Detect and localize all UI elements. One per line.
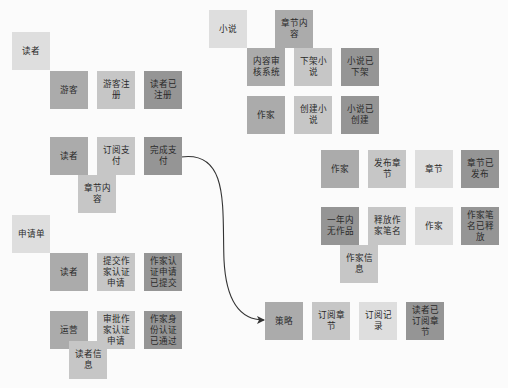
sticky-note-label: 提交作家认证申请 bbox=[99, 256, 133, 289]
sticky-note-command[interactable]: 读者信息 bbox=[69, 341, 107, 379]
sticky-note-command[interactable]: 提交作家认证申请 bbox=[97, 253, 135, 291]
sticky-note-label: 读者信息 bbox=[71, 349, 105, 371]
sticky-note-label: 订阅章节 bbox=[314, 310, 348, 332]
sticky-note-event[interactable]: 读者已订阅章节 bbox=[406, 302, 444, 340]
sticky-note-label: 作家信息 bbox=[342, 253, 376, 275]
sticky-note-label: 小说已下架 bbox=[343, 56, 377, 78]
sticky-note-label: 小说 bbox=[219, 24, 237, 35]
sticky-note-label: 读者 bbox=[60, 267, 78, 278]
sticky-note-label: 作家身份认证已通过 bbox=[146, 314, 180, 347]
sticky-note-actor[interactable]: 作家 bbox=[321, 150, 359, 188]
sticky-note-command[interactable]: 章节内容 bbox=[78, 175, 116, 213]
sticky-note-actor[interactable]: 读者 bbox=[50, 253, 88, 291]
arrow-payment-to-policy[interactable] bbox=[181, 156, 264, 320]
sticky-note-event[interactable]: 完成支付 bbox=[144, 137, 182, 175]
sticky-note-label: 作家 bbox=[331, 164, 349, 175]
sticky-note-label: 发布章节 bbox=[370, 158, 404, 180]
sticky-note-command[interactable]: 发布章节 bbox=[368, 150, 406, 188]
sticky-note-label: 章节 bbox=[425, 164, 443, 175]
sticky-note-event[interactable]: 小说已创建 bbox=[341, 96, 379, 134]
sticky-note-light[interactable]: 章节 bbox=[415, 150, 453, 188]
sticky-note-command[interactable]: 释放作家笔名 bbox=[368, 207, 406, 245]
sticky-note-label: 策略 bbox=[275, 316, 293, 327]
sticky-note-actor[interactable]: 作家 bbox=[247, 96, 285, 134]
sticky-note-label: 作家 bbox=[257, 110, 275, 121]
sticky-note-light[interactable]: 订阅记录 bbox=[359, 302, 397, 340]
sticky-note-label: 章节已发布 bbox=[463, 158, 497, 180]
sticky-note-label: 游客注册 bbox=[99, 79, 133, 101]
sticky-note-command[interactable]: 创建小说 bbox=[294, 96, 332, 134]
sticky-note-label: 作家认证申请已提交 bbox=[146, 256, 180, 289]
sticky-note-label: 订阅支付 bbox=[99, 145, 133, 167]
sticky-note-label: 游客 bbox=[60, 85, 78, 96]
sticky-note-event[interactable]: 作家认证申请已提交 bbox=[144, 253, 182, 291]
sticky-note-light[interactable]: 读者 bbox=[12, 32, 50, 70]
sticky-note-command[interactable]: 订阅支付 bbox=[97, 137, 135, 175]
sticky-note-label: 读者 bbox=[22, 46, 40, 57]
sticky-note-actor[interactable]: 读者 bbox=[50, 137, 88, 175]
sticky-note-label: 读者 bbox=[60, 151, 78, 162]
sticky-note-label: 完成支付 bbox=[146, 145, 180, 167]
sticky-note-label: 读者已注册 bbox=[146, 79, 180, 101]
sticky-note-label: 章节内容 bbox=[80, 183, 114, 205]
sticky-note-event[interactable]: 一年内无作品 bbox=[321, 207, 359, 245]
sticky-note-event[interactable]: 小说已下架 bbox=[341, 48, 379, 86]
sticky-note-label: 一年内无作品 bbox=[323, 215, 357, 237]
sticky-note-label: 作家笔名已释放 bbox=[463, 210, 497, 243]
sticky-note-label: 内容审核系统 bbox=[249, 56, 283, 78]
sticky-note-command[interactable]: 游客注册 bbox=[97, 71, 135, 109]
sticky-note-label: 作家 bbox=[425, 221, 443, 232]
sticky-note-light[interactable]: 申请单 bbox=[12, 215, 50, 253]
sticky-note-actor[interactable]: 内容审核系统 bbox=[247, 48, 285, 86]
sticky-note-label: 释放作家笔名 bbox=[370, 215, 404, 237]
sticky-note-event[interactable]: 章节已发布 bbox=[461, 150, 499, 188]
sticky-note-label: 申请单 bbox=[18, 229, 45, 240]
sticky-note-light[interactable]: 小说 bbox=[209, 10, 247, 48]
sticky-note-command[interactable]: 下架小说 bbox=[294, 48, 332, 86]
sticky-note-label: 订阅记录 bbox=[361, 310, 395, 332]
sticky-note-label: 章节内容 bbox=[277, 18, 311, 40]
sticky-note-event[interactable]: 读者已注册 bbox=[144, 71, 182, 109]
sticky-note-command[interactable]: 订阅章节 bbox=[312, 302, 350, 340]
sticky-note-command[interactable]: 作家信息 bbox=[340, 245, 378, 283]
sticky-note-label: 下架小说 bbox=[296, 56, 330, 78]
sticky-note-label: 创建小说 bbox=[296, 104, 330, 126]
sticky-note-actor[interactable]: 策略 bbox=[265, 302, 303, 340]
sticky-note-label: 读者已订阅章节 bbox=[408, 305, 442, 338]
sticky-note-event[interactable]: 作家身份认证已通过 bbox=[144, 311, 182, 349]
sticky-note-label: 小说已创建 bbox=[343, 104, 377, 126]
sticky-note-actor[interactable]: 游客 bbox=[50, 71, 88, 109]
sticky-note-label: 运营 bbox=[60, 325, 78, 336]
sticky-note-actor[interactable]: 章节内容 bbox=[275, 10, 313, 48]
sticky-note-event[interactable]: 作家笔名已释放 bbox=[461, 207, 499, 245]
sticky-note-light[interactable]: 作家 bbox=[415, 207, 453, 245]
